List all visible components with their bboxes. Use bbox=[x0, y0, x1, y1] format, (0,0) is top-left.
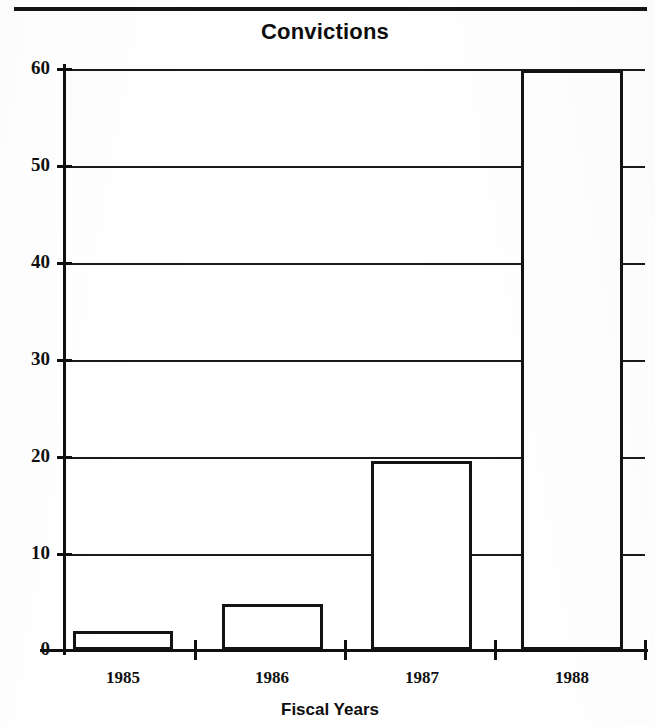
x-tick-mark-2 bbox=[344, 640, 347, 660]
y-tick-label-10: 10 bbox=[2, 542, 50, 564]
bar-1985[interactable] bbox=[73, 631, 173, 650]
bar-1987[interactable] bbox=[371, 461, 472, 650]
y-tick-label-0: 0 bbox=[2, 638, 50, 660]
bar-1986[interactable] bbox=[222, 604, 323, 650]
y-tick-label-40: 40 bbox=[2, 251, 50, 273]
top-horizontal-rule bbox=[14, 7, 647, 11]
x-tick-mark-3 bbox=[494, 640, 497, 660]
y-tick-label-20: 20 bbox=[2, 445, 50, 467]
chart-title: Convictions bbox=[0, 19, 650, 45]
x-tick-mark-4 bbox=[644, 640, 647, 660]
bar-chart-figure: Convictions 60 50 40 30 20 10 0 1985 198… bbox=[0, 0, 655, 726]
y-tick-mark-20 bbox=[57, 456, 72, 459]
y-tick-mark-40 bbox=[57, 262, 72, 265]
y-tick-mark-30 bbox=[57, 359, 72, 362]
bar-1988[interactable] bbox=[521, 70, 623, 650]
x-tick-label-1988: 1988 bbox=[527, 668, 617, 688]
y-tick-mark-60 bbox=[57, 68, 72, 71]
y-tick-label-30: 30 bbox=[2, 348, 50, 370]
x-tick-label-1986: 1986 bbox=[227, 668, 317, 688]
y-tick-mark-10 bbox=[57, 553, 72, 556]
x-axis-title: Fiscal Years bbox=[0, 700, 655, 720]
x-tick-mark-1 bbox=[194, 640, 197, 660]
y-tick-label-50: 50 bbox=[2, 154, 50, 176]
y-tick-label-60: 60 bbox=[2, 57, 50, 79]
y-tick-mark-0 bbox=[57, 649, 72, 652]
x-tick-label-1985: 1985 bbox=[78, 668, 168, 688]
x-tick-label-1987: 1987 bbox=[377, 668, 467, 688]
y-tick-mark-50 bbox=[57, 165, 72, 168]
